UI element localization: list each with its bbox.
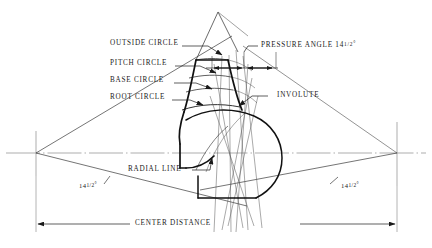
construction-lines xyxy=(6,12,426,232)
label-angle-right: 141/2° xyxy=(341,182,359,190)
angle-right-tick xyxy=(330,177,338,184)
label-pitch-circle: PITCH CIRCLE xyxy=(110,60,167,67)
label-outside-circle: OUTSIDE CIRCLE xyxy=(110,40,179,47)
involute-curve xyxy=(186,110,282,198)
pressure-angle-leader xyxy=(244,46,258,52)
leader-radial-curve xyxy=(196,126,228,170)
leader-base-circle xyxy=(174,83,212,89)
angle-markers xyxy=(104,176,338,184)
leader-pitch-circle xyxy=(175,66,216,73)
leader-involute xyxy=(239,96,268,106)
label-center-distance: CENTER DISTANCE xyxy=(135,220,211,227)
label-base-circle: BASE CIRCLE xyxy=(110,77,164,84)
label-root-circle: ROOT CIRCLE xyxy=(110,94,165,101)
diagram-canvas xyxy=(0,0,432,248)
angle-left-degree: ° xyxy=(95,181,98,187)
angle-right-fraction: 1/2 xyxy=(348,182,356,188)
gear-geometry-diagram: OUTSIDE CIRCLE PITCH CIRCLE BASE CIRCLE … xyxy=(0,0,432,248)
label-angle-left: 141/2° xyxy=(79,182,97,190)
angle-left-tick xyxy=(104,176,110,184)
label-involute: INVOLUTE xyxy=(277,92,319,99)
label-pressure-angle: PRESSURE ANGLE 141/2° xyxy=(261,41,356,49)
angle-right-degree: ° xyxy=(357,181,360,187)
pressure-angle-fraction: 1/2 xyxy=(344,41,353,47)
gear-tooth-profile xyxy=(179,60,242,168)
pressure-angle-degree: ° xyxy=(353,40,356,46)
pressure-angle-text: PRESSURE ANGLE 14 xyxy=(261,41,344,49)
angle-left-fraction: 1/2 xyxy=(86,182,94,188)
label-radial-line: RADIAL LINE xyxy=(128,166,181,173)
